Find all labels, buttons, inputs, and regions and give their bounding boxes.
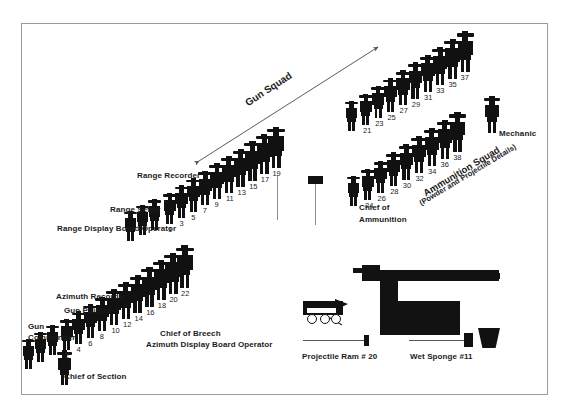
- ammo-lower-number-36: 36: [441, 160, 449, 169]
- cart-wheel-right: [331, 314, 341, 324]
- ammo-upper-number-35: 35: [448, 80, 456, 89]
- label-range-display-board-operator: Range Display Board Operator: [57, 224, 176, 233]
- gun-trunnion: [353, 268, 364, 273]
- gun-odd-number-3: 3: [180, 219, 184, 228]
- gun-even-number-8: 8: [100, 332, 104, 341]
- label-range-recorder: Range Recorder: [137, 171, 200, 180]
- label-chief-of-ammunition-line1: Chief of: [359, 203, 390, 212]
- ammo-upper-number-37: 37: [461, 73, 469, 82]
- gun-even-figure-22: [176, 248, 194, 289]
- gun-even-number-14: 14: [135, 314, 143, 323]
- ammo-lower-number-34: 34: [428, 167, 436, 176]
- chief-of-ammunition-figure: [347, 177, 360, 206]
- gun-recoil-neck: [380, 281, 398, 301]
- projectile-ram-head: [364, 335, 369, 346]
- label-gun-commander-line2: Commander: [28, 333, 76, 342]
- gun-even-number-16: 16: [146, 308, 154, 317]
- ammo-upper-number-29: 29: [412, 100, 420, 109]
- range-board-pole: [277, 175, 278, 220]
- gun-even-number-6: 6: [88, 339, 92, 348]
- projectile-ram-shaft: [303, 340, 365, 341]
- ammo-upper-number-27: 27: [400, 106, 408, 115]
- azimuth-display-board: [308, 176, 323, 184]
- cart-wheel-left: [307, 314, 317, 324]
- cart-wheel-mid: [320, 314, 330, 324]
- ammunition-cart: [303, 297, 351, 325]
- label-range-setter: Range Setter: [110, 205, 161, 214]
- label-chief-of-ammunition-line2: Ammunition: [359, 215, 407, 224]
- gun-odd-number-13: 13: [238, 188, 246, 197]
- label-gun-commander-line1: Gun: [28, 322, 44, 331]
- ammo-upper-number-23: 23: [375, 119, 383, 128]
- ammo-lower-number-38: 38: [453, 153, 461, 162]
- label-azimuth-display-board-operator: Azimuth Display Board Operator: [146, 340, 273, 349]
- gun-even-number-2: 2: [65, 351, 69, 360]
- ammo-lower-number-30: 30: [403, 181, 411, 190]
- label-chief-of-breech: Chief of Breech: [160, 329, 221, 338]
- gun-carriage-body: [380, 301, 460, 335]
- ammo-upper-number-25: 25: [387, 113, 395, 122]
- ammo-upper-number-31: 31: [424, 93, 432, 102]
- ammo-upper-figure-37: [457, 33, 474, 72]
- gun-even-number-12: 12: [123, 320, 131, 329]
- ammo-lower-number-28: 28: [390, 187, 398, 196]
- ammo-lower-number-32: 32: [415, 174, 423, 183]
- mechanic-figure: [484, 98, 500, 133]
- ammo-upper-number-33: 33: [436, 86, 444, 95]
- label-mechanic: Mechanic: [499, 129, 536, 138]
- gun-illustration: [350, 262, 500, 342]
- label-chief-of-section: Chief of Section: [64, 372, 127, 381]
- gun-commander-figure: [22, 340, 35, 369]
- gun-even-number-10: 10: [111, 326, 119, 335]
- gun-barrel-taper: [468, 273, 500, 279]
- gun-even-number-22: 22: [181, 289, 189, 298]
- label-projectile-ram: Projectile Ram # 20: [302, 352, 377, 361]
- gun-even-number-4: 4: [77, 345, 81, 354]
- ammo-upper-lead-figure: [345, 102, 358, 131]
- gun-odd-number-15: 15: [249, 182, 257, 191]
- gun-odd-number-9: 9: [214, 200, 218, 209]
- ammo-lower-figure-24: [361, 170, 375, 200]
- gun-breech-block: [362, 265, 380, 281]
- gun-odd-number-19: 19: [272, 169, 280, 178]
- azimuth-board-pole: [315, 183, 316, 225]
- ammo-upper-number-21: 21: [363, 126, 371, 135]
- gun-odd-number-7: 7: [203, 206, 207, 215]
- label-azimuth-recorder: Azimuth Recorder: [56, 292, 127, 301]
- gun-odd-number-11: 11: [226, 194, 234, 203]
- gun-even-number-20: 20: [169, 295, 177, 304]
- label-gun-pointer: Gun Pointer: [64, 306, 111, 315]
- cart-load-slots: [307, 307, 336, 313]
- gun-odd-number-5: 5: [191, 213, 195, 222]
- label-wet-sponge: Wet Sponge #11: [410, 352, 473, 361]
- gun-odd-number-17: 17: [261, 175, 269, 184]
- wet-sponge-head: [464, 333, 473, 347]
- wet-sponge-shaft: [409, 340, 465, 341]
- diagram-canvas: 1357911131517192468101214161820222123252…: [0, 0, 563, 417]
- gun-even-number-18: 18: [158, 301, 166, 310]
- ammo-lower-number-26: 26: [378, 194, 386, 203]
- ammo-lower-figure-38: [449, 114, 466, 152]
- gun-odd-figure-19: [267, 129, 284, 168]
